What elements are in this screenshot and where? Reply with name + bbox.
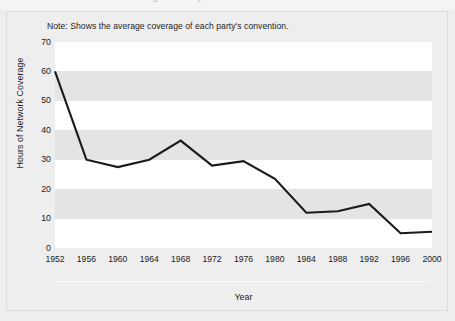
x-axis-tick-label: 1984: [297, 255, 316, 264]
x-axis-tick-label: 1980: [265, 255, 284, 264]
coverage-line-series: [55, 71, 432, 233]
x-axis-tick-label: 1988: [328, 255, 347, 264]
y-axis-title: Hours of Network Coverage: [15, 33, 25, 193]
x-axis-tick-label: 1992: [360, 255, 379, 264]
data-line-svg: [55, 42, 432, 248]
y-axis-tick-label: 40: [41, 126, 51, 135]
x-axis-title: Year: [55, 292, 432, 302]
x-axis-tick-label: 1996: [391, 255, 410, 264]
plot-area: [55, 42, 432, 248]
y-axis-tick-label: 10: [41, 214, 51, 223]
x-axis-tick-label: 2000: [422, 255, 441, 264]
cutoff-title-strip: Network Coverage of Party Conventions: [0, 0, 455, 10]
chart-note: Note: Shows the average coverage of each…: [47, 21, 289, 31]
x-axis-tick-label: 1960: [108, 255, 127, 264]
y-axis-tick-label: 50: [41, 96, 51, 105]
x-axis-tick-label: 1972: [203, 255, 222, 264]
x-axis-tick-label: 1952: [45, 255, 64, 264]
figure-title: Network Coverage of Party Conventions: [78, 0, 264, 2]
x-axis-tick-label: 1956: [77, 255, 96, 264]
x-axis-tick-label: 1976: [234, 255, 253, 264]
y-axis-tick-label: 70: [41, 38, 51, 47]
y-axis-tick-label: 20: [41, 185, 51, 194]
y-axis-tick-label: 0: [46, 244, 51, 253]
x-axis-tick-label: 1968: [171, 255, 190, 264]
y-axis-tick-label: 30: [41, 155, 51, 164]
y-axis-tick-label: 60: [41, 67, 51, 76]
chart-figure: Network Coverage of Party Conventions No…: [0, 0, 455, 321]
x-axis-tick-label: 1964: [140, 255, 159, 264]
x-axis-tick-labels: 1952195619601964196819721976198019841988…: [55, 255, 432, 269]
x-axis-separator: [57, 281, 429, 282]
